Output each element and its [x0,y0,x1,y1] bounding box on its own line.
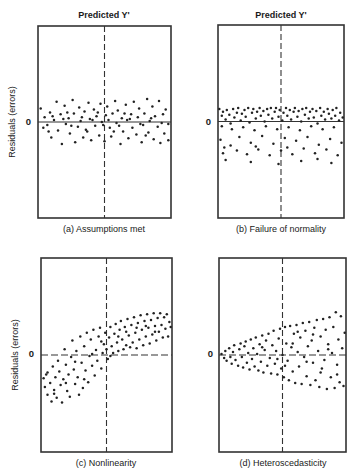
data-point [281,354,284,357]
data-point [167,123,170,126]
data-point [304,330,307,333]
data-point [239,342,242,345]
data-point [90,338,93,341]
data-point [131,341,134,344]
data-point [233,116,236,119]
data-point [314,152,317,155]
data-point [148,120,151,123]
data-point [61,143,64,146]
data-point [236,149,239,152]
data-point [253,365,256,368]
data-point [261,334,264,337]
data-point [342,385,345,388]
data-point [268,154,271,157]
data-point [317,350,320,353]
data-point [223,146,226,149]
data-point [120,320,123,323]
data-point [241,356,244,359]
data-point [78,106,81,109]
panel-caption: (b) Failure of normality [236,224,327,234]
data-point [221,125,224,128]
data-point [77,126,80,129]
data-point [308,321,311,324]
data-point [154,115,157,118]
data-point [337,338,340,341]
data-point [108,336,111,339]
data-point [63,104,66,107]
data-point [325,148,328,151]
data-point [66,390,69,393]
data-point [277,163,280,166]
data-point [229,356,232,359]
data-point [291,370,294,373]
data-point [113,332,116,335]
data-point [163,132,166,135]
data-point [243,345,246,348]
data-point [50,400,53,403]
data-point [140,141,143,144]
data-point [280,149,283,152]
data-point [273,111,276,114]
data-point [154,330,157,333]
data-point [299,129,302,132]
data-point [302,147,305,150]
data-point [262,371,265,374]
data-point [289,325,292,328]
data-point [331,109,334,112]
data-point [65,363,68,366]
data-point [304,113,307,116]
data-point [309,111,312,114]
data-point [105,348,108,351]
data-point [340,141,343,144]
data-point [291,342,294,345]
data-point [97,335,100,338]
data-point [277,115,280,118]
data-point [94,125,97,128]
data-point [164,328,167,331]
data-point [339,112,342,115]
data-point [262,110,265,113]
data-point [145,325,148,328]
data-point [118,125,121,128]
data-point [247,107,250,110]
data-point [164,108,167,111]
data-point [270,372,273,375]
data-point [297,110,300,113]
data-point [224,159,227,162]
data-point [242,126,245,129]
data-point [81,116,84,119]
data-point [163,316,166,319]
data-point [159,312,162,315]
data-point [270,107,273,110]
data-point [109,355,112,358]
top-label-predicted-y: Predicted Y' [78,10,130,20]
data-point [258,107,261,110]
data-point [284,364,287,367]
data-point [294,107,297,110]
data-point [299,336,302,339]
panel-b: Predicted Y' 0 (b) Failure of normality [206,10,344,234]
data-point [307,345,310,348]
data-point [145,335,148,338]
data-point [236,112,239,115]
data-point [336,363,339,366]
data-point [313,327,316,330]
data-point [49,382,52,385]
data-point [276,128,279,131]
data-point [330,117,333,120]
data-point [296,351,299,354]
data-point [251,112,254,115]
data-point [121,117,124,120]
data-point [62,378,65,381]
data-point [244,340,247,343]
data-point [99,103,102,106]
data-point [272,330,275,333]
data-point [42,377,45,380]
data-point [237,107,240,110]
panel-caption: (a) Assumptions met [63,224,146,234]
data-point [53,119,56,122]
data-point [74,141,77,144]
data-point [93,374,96,377]
data-point [104,331,107,334]
data-point [224,350,227,353]
